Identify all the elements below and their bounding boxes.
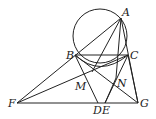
- segment-cg: [128, 55, 138, 103]
- label-b: B: [65, 49, 74, 62]
- label-f: F: [7, 97, 16, 110]
- geometry-diagram: A B C M N F D E G: [0, 0, 156, 119]
- label-e: E: [101, 104, 110, 117]
- label-n: N: [116, 77, 127, 90]
- label-m: M: [74, 80, 87, 93]
- label-d: D: [92, 104, 102, 117]
- label-a: A: [121, 6, 130, 19]
- label-g: G: [140, 97, 149, 110]
- segment-cf: [17, 55, 128, 103]
- label-c: C: [130, 49, 139, 62]
- segment-an: [116, 18, 121, 78]
